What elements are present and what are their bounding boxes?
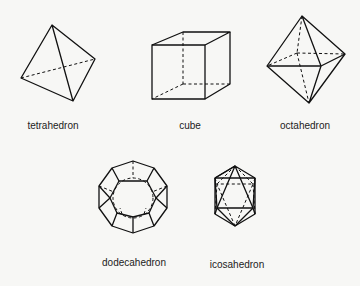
polyhedra-diagram — [0, 0, 360, 286]
dodecahedron-shape — [99, 161, 167, 233]
octahedron-label: octahedron — [280, 120, 330, 131]
icosahedron-label: icosahedron — [210, 259, 264, 270]
cube-label: cube — [179, 120, 201, 131]
dodecahedron-label: dodecahedron — [102, 257, 166, 268]
cube-shape — [152, 32, 230, 99]
tetrahedron-shape — [21, 25, 95, 101]
octahedron-shape — [267, 16, 345, 103]
icosahedron-shape — [215, 166, 255, 226]
tetrahedron-label: tetrahedron — [27, 120, 78, 131]
